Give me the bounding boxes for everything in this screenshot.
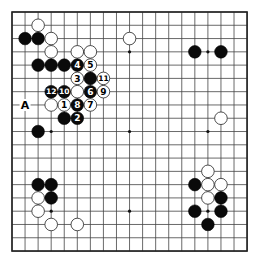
black-stone — [45, 59, 58, 72]
white-stone — [71, 218, 84, 231]
numbered-white-stone: 3 — [71, 72, 84, 85]
white-stone-icon — [215, 112, 228, 125]
black-stone — [189, 178, 202, 191]
white-stone-icon — [71, 85, 84, 98]
star-point — [50, 130, 53, 133]
black-stone — [58, 112, 71, 125]
black-stone — [32, 178, 45, 191]
white-stone-icon — [32, 192, 45, 205]
white-stone — [84, 46, 97, 59]
black-stone-icon — [32, 59, 45, 72]
white-stone — [215, 178, 228, 191]
white-stone — [32, 205, 45, 218]
star-point — [206, 130, 209, 133]
black-stone — [215, 205, 228, 218]
white-stone-icon — [45, 218, 58, 231]
white-stone-icon — [84, 46, 97, 59]
black-stone-icon — [19, 32, 32, 45]
black-stone — [45, 192, 58, 205]
move-number: 3 — [74, 74, 80, 84]
star-point — [128, 50, 131, 53]
white-stone-icon — [215, 178, 228, 191]
numbered-black-stone: 12 — [45, 85, 58, 98]
black-stone-icon — [215, 205, 228, 218]
numbered-black-stone: 2 — [71, 112, 84, 125]
white-stone — [215, 112, 228, 125]
black-stone — [32, 125, 45, 138]
move-number: 7 — [87, 100, 93, 110]
black-stone-icon — [32, 178, 45, 191]
white-stone — [32, 192, 45, 205]
numbered-black-stone: 6 — [84, 85, 97, 98]
go-board: 453111210691872 A — [0, 0, 255, 262]
black-stone — [189, 46, 202, 59]
white-stone — [123, 32, 136, 45]
stones-layer: 453111210691872 — [19, 19, 228, 231]
move-number: 2 — [74, 113, 80, 123]
black-stone — [45, 178, 58, 191]
white-stone-icon — [202, 178, 215, 191]
black-stone-icon — [32, 32, 45, 45]
move-number: 10 — [59, 87, 69, 96]
black-stone — [215, 192, 228, 205]
black-stone-icon — [58, 59, 71, 72]
white-stone — [45, 46, 58, 59]
move-number: 5 — [87, 60, 93, 70]
white-stone — [32, 19, 45, 32]
white-stone — [45, 32, 58, 45]
white-stone — [202, 192, 215, 205]
white-stone-icon — [202, 165, 215, 178]
move-number: 11 — [98, 74, 108, 83]
black-stone — [58, 59, 71, 72]
black-stone-icon — [84, 72, 97, 85]
black-stone-icon — [202, 218, 215, 231]
star-point — [206, 50, 209, 53]
white-stone — [45, 99, 58, 112]
white-stone-icon — [45, 99, 58, 112]
white-stone — [202, 178, 215, 191]
move-number: 8 — [74, 100, 80, 110]
star-point — [50, 210, 53, 213]
point-label: A — [21, 99, 30, 112]
white-stone-icon — [202, 192, 215, 205]
white-stone — [45, 218, 58, 231]
black-stone — [84, 72, 97, 85]
move-number: 9 — [100, 87, 106, 97]
white-stone — [202, 165, 215, 178]
white-stone-icon — [32, 205, 45, 218]
black-stone — [202, 218, 215, 231]
black-stone-icon — [189, 205, 202, 218]
numbered-black-stone: 10 — [58, 85, 71, 98]
numbered-white-stone: 11 — [97, 72, 110, 85]
black-stone — [19, 32, 32, 45]
move-number: 12 — [46, 87, 56, 96]
white-stone — [71, 46, 84, 59]
star-point — [128, 130, 131, 133]
white-stone-icon — [71, 218, 84, 231]
white-stone-icon — [123, 32, 136, 45]
numbered-white-stone: 5 — [84, 59, 97, 72]
white-stone-icon — [45, 46, 58, 59]
black-stone — [32, 59, 45, 72]
labels-layer: A — [20, 99, 31, 112]
black-stone-icon — [215, 46, 228, 59]
white-stone-icon — [45, 32, 58, 45]
star-point — [128, 210, 131, 213]
move-number: 6 — [87, 87, 93, 97]
numbered-white-stone: 7 — [84, 99, 97, 112]
black-stone — [215, 46, 228, 59]
move-number: 1 — [61, 100, 67, 110]
black-stone-icon — [32, 125, 45, 138]
numbered-black-stone: 8 — [71, 99, 84, 112]
numbered-white-stone: 1 — [58, 99, 71, 112]
black-stone-icon — [58, 112, 71, 125]
numbered-black-stone: 4 — [71, 59, 84, 72]
star-point — [206, 210, 209, 213]
white-stone-icon — [71, 46, 84, 59]
black-stone-icon — [215, 192, 228, 205]
black-stone — [189, 205, 202, 218]
move-number: 4 — [74, 60, 80, 70]
black-stone-icon — [189, 178, 202, 191]
black-stone-icon — [189, 46, 202, 59]
numbered-white-stone: 9 — [97, 85, 110, 98]
